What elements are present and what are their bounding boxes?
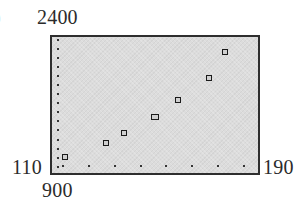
cropped-edge-fragment: ) (0, 6, 1, 29)
y-tick-mark (57, 111, 59, 113)
y-tick-mark (57, 48, 59, 50)
y-tick-mark (57, 39, 59, 41)
data-point-marker (103, 140, 109, 146)
y-tick-mark (57, 148, 59, 150)
data-point-marker (222, 49, 228, 55)
y-tick-mark (57, 157, 59, 159)
y-tick-mark (57, 84, 59, 86)
x-tick-mark (165, 165, 167, 167)
x-tick-mark (88, 165, 90, 167)
y-tick-mark (57, 120, 59, 122)
y-tick-mark (57, 129, 59, 131)
plot-window (50, 35, 260, 175)
x-tick-mark (140, 165, 142, 167)
y-tick-mark (57, 57, 59, 59)
x-tick-mark (62, 165, 64, 167)
x-tick-mark (217, 165, 219, 167)
y-tick-mark (57, 166, 59, 168)
y-tick-mark (57, 75, 59, 77)
data-point-marker (62, 154, 68, 160)
y-tick-mark (57, 66, 59, 68)
y-tick-mark (57, 93, 59, 95)
data-point-marker (206, 75, 212, 81)
y-tick-mark (57, 139, 59, 141)
data-point-marker (151, 114, 159, 120)
y-min-label: 900 (42, 180, 73, 200)
y-tick-mark (57, 102, 59, 104)
x-max-label: 190 (263, 157, 294, 177)
x-tick-mark (243, 165, 245, 167)
x-min-label: 110 (12, 157, 42, 177)
data-point-marker (175, 97, 181, 103)
y-max-label: 2400 (37, 7, 78, 27)
x-tick-mark (114, 165, 116, 167)
x-tick-mark (191, 165, 193, 167)
data-point-marker (121, 130, 127, 136)
